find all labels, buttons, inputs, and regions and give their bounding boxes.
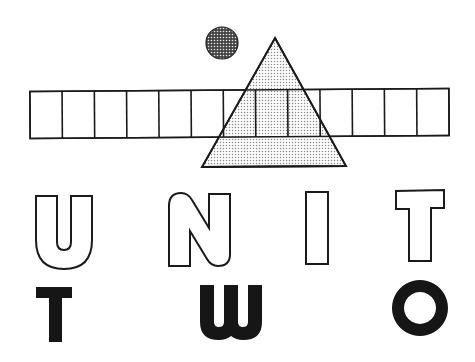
- letter-t-outline: [396, 190, 444, 261]
- letter-o-solid: [392, 280, 448, 336]
- title-line-1: [36, 190, 444, 269]
- letter-n-outline: [169, 193, 230, 266]
- letter-t-solid: [36, 287, 72, 342]
- letter-w-solid: [200, 285, 262, 340]
- letter-u-outline: [36, 196, 92, 269]
- letter-i-outline: [306, 192, 328, 264]
- title-line-2: [36, 280, 448, 342]
- stippled-circle-icon: [206, 27, 238, 59]
- unit-two-cover: [0, 0, 475, 362]
